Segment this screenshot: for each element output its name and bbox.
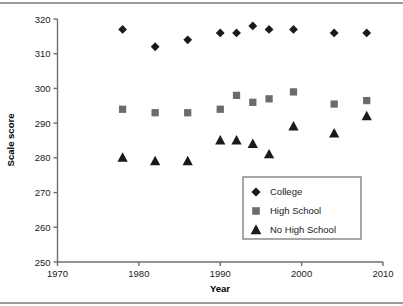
data-point-triangle bbox=[288, 121, 298, 130]
data-point-square bbox=[249, 99, 256, 106]
y-tick-label: 250 bbox=[35, 257, 51, 268]
data-point-square bbox=[119, 106, 126, 113]
data-point-triangle bbox=[362, 111, 372, 120]
data-point-square bbox=[290, 88, 297, 95]
data-point-diamond bbox=[216, 28, 225, 37]
y-tick-label: 270 bbox=[35, 187, 51, 198]
scatter-plot: 250260270280290300310320 197019801990200… bbox=[0, 0, 403, 306]
x-tick-label: 2000 bbox=[291, 268, 312, 279]
data-point-diamond bbox=[232, 28, 241, 37]
data-point-diamond bbox=[118, 25, 127, 34]
data-point-square bbox=[217, 106, 224, 113]
legend-marker-square bbox=[252, 207, 260, 215]
data-point-triangle bbox=[117, 152, 127, 161]
chart-container: 250260270280290300310320 197019801990200… bbox=[0, 0, 403, 306]
data-point-square bbox=[265, 95, 272, 102]
data-point-diamond bbox=[362, 28, 371, 37]
data-point-layer bbox=[117, 22, 371, 166]
data-point-square bbox=[331, 100, 338, 107]
x-tick-label: 2010 bbox=[372, 268, 393, 279]
data-point-diamond bbox=[183, 35, 192, 44]
y-tick-label: 320 bbox=[35, 14, 51, 25]
data-point-diamond bbox=[330, 28, 339, 37]
x-tick-label: 1990 bbox=[210, 268, 231, 279]
data-point-diamond bbox=[289, 25, 298, 34]
y-tick-label: 300 bbox=[35, 83, 51, 94]
data-point-square bbox=[184, 109, 191, 116]
legend-label: High School bbox=[270, 205, 321, 216]
data-point-diamond bbox=[151, 42, 160, 51]
chart-legend: CollegeHigh SchoolNo High School bbox=[243, 177, 361, 239]
data-point-triangle bbox=[329, 128, 339, 137]
data-point-triangle bbox=[215, 135, 225, 144]
y-tick-label: 310 bbox=[35, 48, 51, 59]
data-point-square bbox=[152, 109, 159, 116]
x-axis-title: Year bbox=[210, 283, 230, 294]
data-point-triangle bbox=[150, 156, 160, 165]
y-axis-ticks: 250260270280290300310320 bbox=[35, 14, 58, 268]
y-axis-title: Scale score bbox=[5, 114, 16, 167]
y-tick-label: 280 bbox=[35, 152, 51, 163]
y-tick-label: 260 bbox=[35, 222, 51, 233]
data-point-triangle bbox=[248, 138, 258, 147]
data-point-triangle bbox=[264, 149, 274, 158]
legend-label: College bbox=[270, 186, 302, 197]
y-tick-label: 290 bbox=[35, 118, 51, 129]
data-point-square bbox=[233, 92, 240, 99]
data-point-diamond bbox=[265, 25, 274, 34]
data-point-square bbox=[363, 97, 370, 104]
legend-label: No High School bbox=[270, 224, 336, 235]
data-point-diamond bbox=[248, 22, 257, 31]
data-point-triangle bbox=[231, 135, 241, 144]
x-tick-label: 1970 bbox=[47, 268, 68, 279]
x-axis-ticks: 19701980199020002010 bbox=[47, 262, 394, 279]
x-tick-label: 1980 bbox=[128, 268, 149, 279]
data-point-triangle bbox=[183, 156, 193, 165]
